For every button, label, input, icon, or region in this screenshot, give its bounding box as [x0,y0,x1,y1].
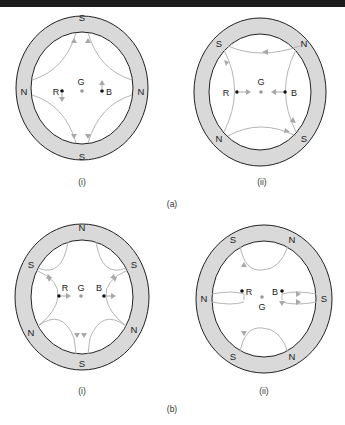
label-g: G [257,77,264,87]
diagram-b-i: N S S N N S R G B (i) [15,222,149,396]
inner-bore [31,32,133,144]
pole-lower-right: N [131,324,138,335]
pole-upper-right: N [289,234,296,245]
pole-left: N [201,293,208,304]
pole-lower-left: N [28,327,35,338]
pole-lower-left: S [230,351,236,362]
pole-bottom: S [79,358,85,369]
pole-bottom-right: S [301,133,307,144]
pole-bottom: S [79,151,85,162]
inner-bore [212,241,316,357]
pole-upper-right: S [131,259,137,270]
diagram-a-ii: S N N S G R B (ii) [194,18,326,187]
point-r [240,289,244,293]
pole-right: N [138,86,145,97]
label-g: G [77,77,84,87]
pole-top-right: N [301,38,308,49]
point-g [259,90,263,94]
point-g [260,295,264,299]
label-r: R [246,287,253,297]
label-b: B [96,283,102,293]
caption-ii: (ii) [259,386,269,396]
label-r: R [53,87,60,97]
caption-i: (i) [78,386,86,396]
pole-upper-left: S [28,259,34,270]
pole-top-left: S [216,38,222,49]
point-b [280,289,284,293]
label-b: B [106,87,112,97]
point-g [79,294,83,298]
pole-lower-right: N [289,351,296,362]
part-b-label: (b) [167,404,178,414]
pole-left: N [21,86,28,97]
pole-top: N [79,222,86,233]
pole-upper-left: S [230,234,236,245]
label-r: R [223,88,230,98]
diagram-b-ii: S N N S S N R G B (ii) [196,225,332,396]
label-g: G [77,283,84,293]
label-b: B [272,287,278,297]
part-a-label: (a) [167,199,178,209]
magnetic-field-diagram: S S N N G R B (i) S N N [0,0,345,425]
caption-ii: (ii) [257,177,267,187]
label-r: R [62,283,69,293]
diagram-a-i: S S N N G R B (i) [16,12,148,187]
caption-i: (i) [78,177,86,187]
pole-bottom-left: N [216,133,223,144]
label-g: G [258,302,265,312]
label-b: B [291,88,297,98]
pole-right: S [321,293,327,304]
point-g [80,89,84,93]
pole-top: S [79,12,85,23]
